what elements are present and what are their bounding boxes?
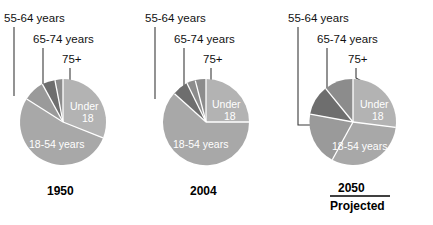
pie-svg-2050: 55-64 years 65-74 years 75+ Under 18 (286, 0, 433, 225)
slice-label-under18-line1-2004: Under (212, 98, 241, 110)
chart-panel-2050: 55-64 years 65-74 years 75+ Under 18 (286, 0, 433, 225)
pie-chart-figure: 55-64 years 65-74 years 75+ (0, 0, 433, 225)
slice-label-under18-line2-2050: 18 (372, 110, 384, 122)
callout-label-55-64-1950: 55-64 years (4, 12, 65, 24)
year-label-2004: 2004 (190, 184, 217, 198)
slice-label-under18-line2-2004: 18 (224, 110, 236, 122)
pie-svg-2004: 55-64 years 65-74 years 75+ Under 18 (143, 0, 288, 225)
slice-label-under18-line1-1950: Under (70, 100, 99, 112)
callout-label-75plus-2004: 75+ (203, 53, 223, 65)
pie-svg-1950: 55-64 years 65-74 years 75+ (0, 0, 145, 225)
callout-label-55-64-2004: 55-64 years (145, 12, 206, 24)
callout-label-75plus-2050: 75+ (348, 53, 368, 65)
chart-panel-1950: 55-64 years 65-74 years 75+ (0, 0, 145, 225)
callout-label-75plus-1950: 75+ (62, 53, 82, 65)
chart-panel-2004: 55-64 years 65-74 years 75+ Under 18 (143, 0, 288, 225)
slice-label-under18-line2-1950: 18 (82, 112, 94, 124)
subtitle-label-2050: Projected (330, 199, 385, 213)
callout-label-55-64-2050: 55-64 years (288, 12, 349, 24)
callout-label-65-74-2004: 65-74 years (174, 33, 235, 45)
slice-label-18-54-2050: 18-54 years (332, 140, 387, 152)
year-label-2050: 2050 (338, 181, 365, 195)
callout-label-65-74-2050: 65-74 years (317, 33, 378, 45)
year-label-1950: 1950 (47, 184, 74, 198)
slice-label-18-54-2004: 18-54 years (173, 138, 228, 150)
slice-label-18-54-1950: 18-54 years (29, 138, 84, 150)
slice-label-under18-line1-2050: Under (360, 98, 389, 110)
callout-label-65-74-1950: 65-74 years (33, 33, 94, 45)
